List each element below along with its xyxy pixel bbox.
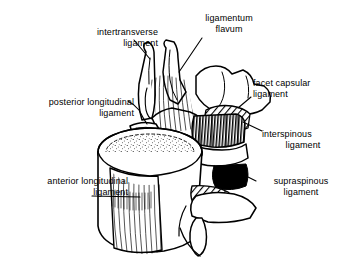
label-line-2: ligament xyxy=(8,108,134,119)
facet-capsular-ligament-label: facet capsular ligament xyxy=(253,78,343,100)
leader-ligamentum-flavum xyxy=(179,38,202,72)
label-line-1: ligamentum xyxy=(186,13,272,24)
label-line-1: intertransverse xyxy=(46,27,158,38)
central-spinous-process xyxy=(163,40,186,104)
left-transverse-process xyxy=(138,42,155,120)
ligamentum-flavum-label: ligamentum flavum xyxy=(186,13,272,35)
label-line-2: ligament xyxy=(258,187,344,198)
label-line-2: ligament xyxy=(46,38,158,49)
label-line-2: ligament xyxy=(262,140,344,151)
label-line-1: supraspinous xyxy=(258,176,344,187)
label-line-2: ligament xyxy=(253,89,343,100)
label-line-2: flavum xyxy=(186,24,272,35)
interspinous-ligament-region xyxy=(192,114,245,147)
vertebral-ligaments-figure: intertransverse ligament ligamentum flav… xyxy=(0,0,347,270)
posterior-longitudinal-ligament-label: posterior longitudinal ligament xyxy=(8,97,134,119)
intertransverse-ligament-label: intertransverse ligament xyxy=(46,27,158,49)
anterior-longitudinal-ligament-label: anterior longitudinal ligament xyxy=(4,176,128,198)
interspinous-ligament-label: interspinous ligament xyxy=(262,129,344,151)
label-line-1: facet capsular xyxy=(253,78,343,89)
supraspinous-ligament-label: supraspinous ligament xyxy=(258,176,344,198)
label-line-2: ligament xyxy=(4,187,128,198)
label-line-1: posterior longitudinal xyxy=(8,97,134,108)
label-line-1: interspinous xyxy=(262,129,344,140)
supraspinous-ligament-region xyxy=(212,164,248,190)
label-line-1: anterior longitudinal xyxy=(4,176,128,187)
